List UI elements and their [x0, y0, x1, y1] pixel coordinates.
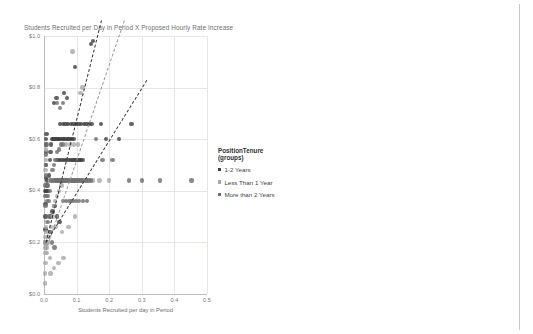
trend-line: [45, 21, 101, 243]
scatter-point: [107, 178, 111, 182]
scatter-point: [45, 251, 49, 255]
legend-item[interactable]: 1-2 Years: [218, 166, 286, 173]
scatter-point: [53, 158, 57, 162]
scatter-point: [66, 225, 70, 229]
y-axis-tick-label: $0.4: [14, 187, 40, 193]
scatter-point: [48, 189, 52, 193]
scatter-point: [44, 142, 48, 146]
left-chart-title: Students Recruited per Day in Period X P…: [24, 24, 233, 31]
scatter-point: [52, 163, 56, 167]
scatter-point: [65, 96, 69, 100]
scatter-point: [56, 261, 60, 265]
scatter-point: [44, 152, 48, 156]
scatter-point: [127, 178, 131, 182]
scatter-point: [85, 199, 89, 203]
scatter-point: [48, 256, 52, 260]
y-axis-tick-label: $0.6: [14, 136, 40, 142]
scatter-point: [50, 168, 54, 172]
left-plot-area[interactable]: 0.00.10.20.30.40.5$0.0$0.2$0.4$0.6$0.8$1…: [44, 36, 207, 294]
scatter-point: [58, 106, 62, 110]
legend-swatch-icon: [218, 193, 221, 196]
x-axis-tick-label: 0.0: [30, 297, 58, 303]
scatter-point: [117, 137, 121, 141]
scatter-point: [43, 204, 47, 208]
scatter-point: [60, 230, 64, 234]
x-gridline: [77, 36, 78, 294]
x-axis-tick-label: 0.4: [160, 297, 188, 303]
x-gridline: [207, 36, 208, 294]
scatter-point: [61, 142, 65, 146]
scatter-point: [110, 158, 114, 162]
legend-item[interactable]: Less Than 1 Year: [218, 179, 286, 186]
legend-item-label: More than 2 Years: [224, 191, 274, 198]
scatter-point: [94, 137, 98, 141]
scatter-point: [55, 101, 59, 105]
scatter-point: [43, 168, 47, 172]
right-chart-panel: Manager Overall Rating X Proposed Hourly…: [286, 0, 519, 334]
x-gridline: [109, 36, 110, 294]
y-axis-tick-label: $0.2: [14, 239, 40, 245]
scatter-point: [44, 137, 48, 141]
legend-item[interactable]: More than 2 Years: [218, 191, 286, 198]
scatter-point: [44, 132, 48, 136]
scatter-point: [129, 122, 133, 126]
x-axis-tick-label: 0.2: [95, 297, 123, 303]
x-gridline: [174, 36, 175, 294]
y-gridline: [44, 88, 207, 89]
x-axis-label: Students Recruited per day in Period: [66, 307, 186, 313]
y-gridline: [44, 242, 207, 243]
x-axis-tick-label: 0.1: [63, 297, 91, 303]
scatter-point: [45, 194, 49, 198]
left-chart-panel: Students Recruited per Day in Period X P…: [0, 0, 286, 334]
y-gridline: [44, 36, 207, 37]
scatter-point: [47, 199, 51, 203]
scatter-point: [62, 91, 66, 95]
scatter-point: [48, 271, 52, 275]
y-axis-tick-label: $1.0: [14, 33, 40, 39]
panel-divider: [519, 4, 520, 330]
scatter-point: [61, 101, 65, 105]
scatter-point: [44, 158, 48, 162]
legend-swatch-icon: [218, 168, 221, 171]
scatter-point: [158, 178, 162, 182]
y-gridline: [44, 191, 207, 192]
scatter-point: [97, 178, 101, 182]
scatter-point: [73, 214, 77, 218]
scatter-point: [57, 147, 61, 151]
scatter-point: [44, 173, 48, 177]
legend-item-label: 1-2 Years: [224, 166, 250, 173]
scatter-point: [76, 142, 80, 146]
scatter-point: [140, 178, 144, 182]
scatter-point: [43, 281, 47, 285]
scatter-point: [99, 122, 103, 126]
scatter-point: [52, 266, 56, 270]
scatter-point: [80, 158, 84, 162]
scatter-point: [89, 178, 93, 182]
y-axis-tick-label: $0.8: [14, 84, 40, 90]
scatter-point: [70, 49, 74, 53]
scatter-point: [48, 158, 52, 162]
scatter-point: [50, 240, 54, 244]
x-axis-tick-label: 0.5: [193, 297, 221, 303]
scatter-point: [43, 271, 47, 275]
scatter-point: [52, 245, 56, 249]
scatter-point: [44, 163, 48, 167]
scatter-point: [189, 178, 193, 182]
scatter-point: [61, 256, 65, 260]
legend-item-label: Less Than 1 Year: [224, 179, 272, 186]
y-axis-tick-label: $0.0: [14, 291, 40, 297]
left-chart-legend[interactable]: PositionTenure (groups) 1-2 YearsLess Th…: [218, 147, 286, 204]
scatter-point: [54, 96, 58, 100]
x-gridline: [142, 36, 143, 294]
scatter-point: [100, 158, 104, 162]
legend-swatch-icon: [218, 180, 221, 183]
legend-title: PositionTenure (groups): [218, 147, 286, 161]
scatter-point: [46, 183, 50, 187]
scatter-point: [48, 150, 52, 154]
x-axis-line: [44, 294, 207, 295]
scatter-point: [43, 261, 47, 265]
scatter-point: [49, 142, 53, 146]
x-axis-tick-label: 0.3: [128, 297, 156, 303]
